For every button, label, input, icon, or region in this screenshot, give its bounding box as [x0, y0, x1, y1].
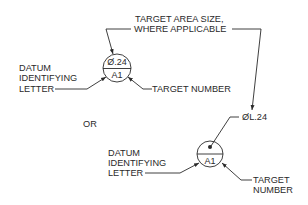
datum-target-diagram: TARGET AREA SIZE, WHERE APPLICABLE Ø.24 …	[0, 0, 308, 205]
target-number-leader-top	[128, 77, 152, 89]
target-area-leader-top	[106, 29, 131, 54]
target-number-line2: NUMBER	[253, 185, 293, 195]
datum-target-id: A1	[204, 156, 215, 166]
target-number-line1: TARGET	[253, 175, 290, 185]
datum-label-line1: DATUM	[108, 148, 140, 158]
datum-target-symbol-top: Ø.24 A1	[103, 54, 131, 82]
datum-label-line3: LETTER	[108, 168, 144, 178]
target-area-leader-bottom	[232, 29, 261, 110]
datum-label-line1: DATUM	[19, 63, 51, 73]
datum-label-line3: LETTER	[19, 84, 55, 94]
target-area-label-line2: WHERE APPLICABLE	[134, 24, 226, 34]
bottom-callout: ØL.24 A1 DATUM IDENTIFYING LETTER TARGET…	[108, 112, 293, 195]
target-number-leader-bottom	[222, 163, 252, 180]
target-point-dot-icon	[208, 145, 212, 149]
datum-target-id: A1	[111, 70, 122, 80]
target-size-text: ØL.24	[242, 112, 267, 122]
target-area-size-value: Ø.24	[107, 57, 127, 67]
datum-label-line2: IDENTIFYING	[19, 73, 77, 83]
target-number-label: TARGET NUMBER	[152, 84, 231, 94]
top-callout: TARGET AREA SIZE, WHERE APPLICABLE Ø.24 …	[19, 14, 261, 110]
datum-label-line2: IDENTIFYING	[108, 158, 166, 168]
or-separator: OR	[83, 119, 97, 129]
datum-target-symbol-bottom: A1	[197, 141, 223, 167]
target-area-label-line1: TARGET AREA SIZE,	[135, 14, 224, 24]
